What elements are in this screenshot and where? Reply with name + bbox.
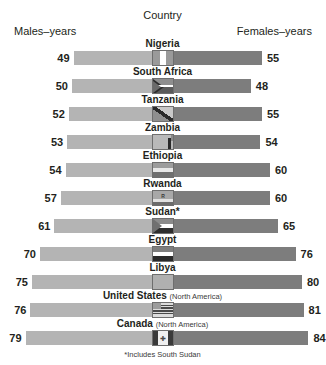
country-name: Egypt (149, 234, 177, 245)
female-value: 81 (309, 303, 321, 317)
female-value: 76 (301, 247, 313, 261)
south-africa-flag (152, 78, 174, 94)
chart-row: Egypt7076 (0, 234, 325, 262)
bar-line: 7076 (0, 247, 325, 261)
female-value: 55 (267, 107, 279, 121)
male-value: 70 (24, 247, 36, 261)
country-label: Rwanda (0, 178, 325, 190)
bar-line: ✚7984 (0, 331, 325, 345)
header-country: Country (0, 9, 325, 21)
country-label: Libya (0, 262, 325, 274)
country-name: Canada (117, 318, 153, 329)
country-label: Zambia (0, 122, 325, 134)
libya-flag (152, 274, 174, 290)
chart-row: Tanzania5255 (0, 94, 325, 122)
bar-line: R5760 (0, 191, 325, 205)
chart-row: South Africa5048 (0, 66, 325, 94)
sudan-flag (152, 218, 174, 234)
female-value: 60 (275, 163, 287, 177)
country-name: Rwanda (143, 178, 181, 189)
bar-line: 7681 (0, 303, 325, 317)
bar-line: 6165 (0, 219, 325, 233)
male-bar (72, 79, 152, 93)
country-label: Egypt (0, 234, 325, 246)
female-bar (174, 51, 262, 65)
bar-line: 5354 (0, 135, 325, 149)
country-name: Nigeria (146, 38, 180, 49)
male-bar (69, 107, 152, 121)
header-males: Males–years (14, 25, 76, 37)
female-bar (174, 135, 260, 149)
male-bar (54, 219, 152, 233)
canada-flag: ✚ (152, 330, 174, 346)
male-bar (74, 51, 152, 65)
male-value: 53 (51, 135, 63, 149)
country-name: Libya (149, 262, 175, 273)
female-value: 84 (313, 331, 325, 345)
male-value: 57 (45, 191, 57, 205)
male-bar (40, 247, 152, 261)
male-bar (67, 135, 152, 149)
female-value: 48 (256, 79, 268, 93)
country-name: Sudan* (145, 206, 179, 217)
zambia-flag (152, 134, 174, 150)
male-value: 49 (57, 51, 69, 65)
male-value: 50 (56, 79, 68, 93)
female-value: 54 (265, 135, 277, 149)
chart-row: Libya7580 (0, 262, 325, 290)
country-label: Ethiopia (0, 150, 325, 162)
bar-line: 7580 (0, 275, 325, 289)
country-name: Tanzania (141, 94, 183, 105)
ethiopia-flag (152, 162, 174, 178)
female-value: 60 (275, 191, 287, 205)
male-bar (32, 275, 152, 289)
female-value: 80 (307, 275, 319, 289)
male-value: 61 (38, 219, 50, 233)
male-value: 54 (49, 163, 61, 177)
female-bar (174, 191, 270, 205)
male-value: 75 (16, 275, 28, 289)
chart-footnote: *Includes South Sudan (0, 350, 325, 359)
country-region: (North America) (170, 292, 223, 301)
female-bar (174, 107, 262, 121)
male-value: 52 (53, 107, 65, 121)
country-region: (North America) (156, 320, 209, 329)
bar-line: 4955 (0, 51, 325, 65)
chart-row: Zambia5354 (0, 122, 325, 150)
tanzania-flag (152, 106, 174, 122)
country-label: United States (North America) (0, 290, 325, 302)
male-value: 76 (14, 303, 26, 317)
male-bar (30, 303, 152, 317)
female-value: 65 (283, 219, 295, 233)
country-label: Tanzania (0, 94, 325, 106)
bar-line: 5460 (0, 163, 325, 177)
female-bar (174, 219, 278, 233)
united-states-flag (152, 302, 174, 318)
male-bar (61, 191, 152, 205)
female-bar (174, 275, 302, 289)
country-name: Zambia (145, 122, 180, 133)
egypt-flag (152, 246, 174, 262)
chart-row: Nigeria4955 (0, 38, 325, 66)
chart-row: RwandaR5760 (0, 178, 325, 206)
male-bar (26, 331, 152, 345)
country-name: Ethiopia (143, 150, 182, 161)
female-bar (174, 79, 251, 93)
female-value: 55 (267, 51, 279, 65)
female-bar (174, 163, 270, 177)
chart-rows: Nigeria4955South Africa5048Tanzania5255Z… (0, 38, 325, 346)
female-bar (174, 331, 308, 345)
header-females: Females–years (237, 25, 312, 37)
country-label: Nigeria (0, 38, 325, 50)
country-label: South Africa (0, 66, 325, 78)
country-label: Sudan* (0, 206, 325, 218)
country-name: United States (103, 290, 167, 301)
chart-row: United States (North America)7681 (0, 290, 325, 318)
chart-row: Canada (North America)✚7984 (0, 318, 325, 346)
male-bar (66, 163, 152, 177)
rwanda-flag: R (152, 190, 174, 206)
nigeria-flag (152, 50, 174, 66)
female-bar (174, 247, 296, 261)
bar-line: 5048 (0, 79, 325, 93)
chart-row: Ethiopia5460 (0, 150, 325, 178)
